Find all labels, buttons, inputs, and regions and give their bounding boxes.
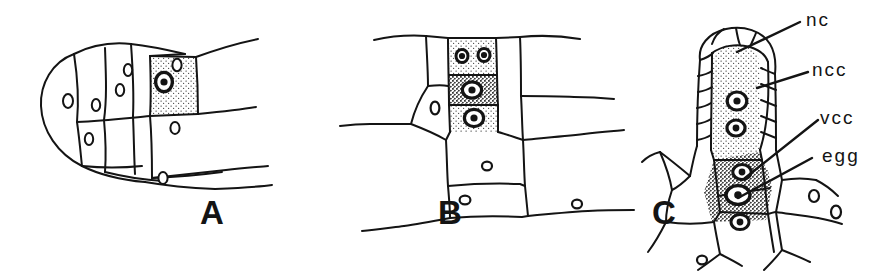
label-egg: egg: [822, 146, 860, 165]
label-nc: nc: [806, 10, 830, 29]
panel-letter-a: A: [200, 196, 224, 229]
leader-ncc: [757, 72, 808, 88]
label-ncc: ncc: [812, 60, 848, 79]
panel-b-drawing: [340, 36, 634, 231]
panel-letter-c: C: [652, 196, 676, 229]
figure-archegonium-development: A B C nc ncc vcc egg: [0, 0, 888, 274]
label-vcc: vcc: [820, 108, 855, 127]
figure-linework: [0, 0, 888, 274]
panel-a-drawing: [41, 39, 272, 189]
leader-nc: [737, 22, 800, 52]
panel-letter-b: B: [438, 196, 462, 229]
